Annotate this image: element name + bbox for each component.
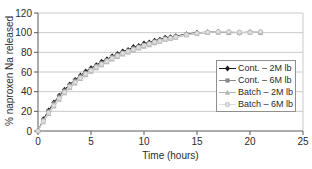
series-marker-icon [219,64,236,73]
data-point-marker [57,96,61,100]
data-point-marker [174,35,178,39]
data-point-marker [131,47,135,51]
legend-label: Cont. – 6M lb [238,75,292,86]
data-point-marker [142,43,146,47]
data-point-marker [115,54,119,58]
data-point-marker [237,30,241,34]
x-tick-label: 0 [35,136,41,147]
data-point-marker [248,30,252,34]
data-point-marker [216,29,220,33]
y-tick-label: 40 [21,86,33,97]
data-point-marker [121,51,125,55]
data-point-marker [78,76,82,80]
x-tick-label: 15 [191,136,203,147]
data-point-marker [195,31,199,35]
x-tick-label: 5 [88,136,94,147]
legend-label: Batch – 6M lb [238,99,293,110]
data-point-marker [62,90,66,94]
x-axis-title: Time (hours) [38,150,303,161]
y-tick-label: 0 [26,126,32,137]
data-point-marker [52,103,56,107]
legend-label: Cont. – 2M lb [238,63,292,74]
legend-item: Batch – 2M lb [219,86,293,98]
legend-item: Cont. – 6M lb [219,74,293,86]
legend-label: Batch – 2M lb [238,87,293,98]
x-tick-label: 25 [297,136,309,147]
data-point-marker [163,37,167,41]
x-tick-label: 20 [244,136,256,147]
data-point-marker [36,129,40,133]
data-point-marker [94,65,98,69]
series-marker-icon [219,76,236,85]
y-tick-label: 20 [21,106,33,117]
series-marker-icon [219,88,236,97]
data-point-marker [126,49,130,53]
y-tick-label: 60 [21,67,33,78]
figure: 0204060801001200510152025 % naproxen Na … [0,0,312,169]
x-tick-label: 10 [138,136,150,147]
data-point-marker [73,80,77,84]
data-point-marker [41,119,45,123]
data-point-marker [184,32,188,36]
y-tick-label: 100 [15,27,32,38]
data-point-marker [205,30,209,34]
legend-item: Batch – 6M lb [219,98,293,110]
data-point-marker [99,62,103,66]
legend: Cont. – 2M lb Cont. – 6M lb Batch – 2M l… [216,60,296,112]
data-point-marker [158,39,162,43]
data-point-marker [168,36,172,40]
data-point-marker [68,85,72,89]
data-point-marker [137,45,141,49]
data-point-marker [227,29,231,33]
y-tick-label: 80 [21,47,33,58]
data-point-marker [152,40,156,44]
data-point-marker [46,111,50,115]
legend-item: Cont. – 2M lb [219,62,293,74]
data-point-marker [89,68,93,72]
data-point-marker [225,102,229,106]
data-point-marker [225,78,229,82]
data-point-marker [258,29,262,33]
y-axis-title: % naproxen Na released [4,16,15,126]
data-point-marker [105,59,109,63]
y-tick-label: 120 [15,8,32,19]
data-point-marker [147,42,151,46]
data-point-marker [84,72,88,76]
data-point-marker [110,56,114,60]
data-point-marker [225,65,230,71]
series-marker-icon [219,100,236,109]
